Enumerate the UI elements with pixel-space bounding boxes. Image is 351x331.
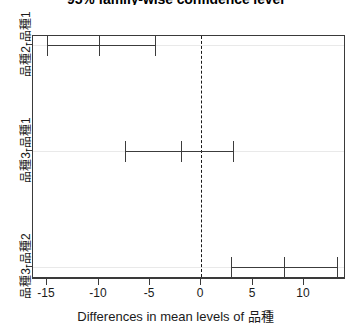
x-axis-tick-10 <box>303 279 304 285</box>
plot-frame <box>32 35 345 278</box>
x-axis-tick-5 <box>252 279 253 285</box>
interval-bar <box>125 151 234 152</box>
x-axis-ticklabel-10: 10 <box>283 286 323 300</box>
x-axis-tick--15 <box>46 279 47 285</box>
x-axis-ticklabel-5: 5 <box>232 286 272 300</box>
interval-lower-cap <box>231 257 232 278</box>
x-axis-tick--10 <box>98 279 99 285</box>
interval-estimate-mark <box>181 141 182 162</box>
interval-upper-cap <box>155 35 156 56</box>
x-axis-line <box>32 278 345 279</box>
x-axis-tick--5 <box>149 279 150 285</box>
interval-lower-cap <box>47 35 48 56</box>
interval-lower-cap <box>125 141 126 162</box>
confidence-interval-1 <box>47 45 156 46</box>
x-axis-title: Differences in mean levels of 品種 <box>0 306 351 325</box>
chart-title: 95% family-wise confidence level <box>0 0 351 5</box>
y-axis-label-2: 品種3-品種1 <box>16 90 33 210</box>
confidence-interval-2 <box>125 151 234 152</box>
interval-bar <box>47 45 156 46</box>
interval-upper-cap <box>337 257 338 278</box>
interval-upper-cap <box>233 141 234 162</box>
confidence-interval-3 <box>231 267 338 268</box>
y-axis-label-1: 品種2-品種1 <box>16 0 33 104</box>
x-axis-ticklabel-0: 0 <box>180 286 220 300</box>
zero-reference-line <box>201 36 202 277</box>
x-axis-ticklabel--5: -5 <box>129 286 169 300</box>
tukey-hsd-plot: 95% family-wise confidence level <box>0 0 351 331</box>
interval-estimate-mark <box>284 257 285 278</box>
interval-estimate-mark <box>99 35 100 56</box>
x-axis-ticklabel--10: -10 <box>78 286 118 300</box>
x-axis-tick-0 <box>200 279 201 285</box>
x-axis-ticklabel--15: -15 <box>26 286 66 300</box>
